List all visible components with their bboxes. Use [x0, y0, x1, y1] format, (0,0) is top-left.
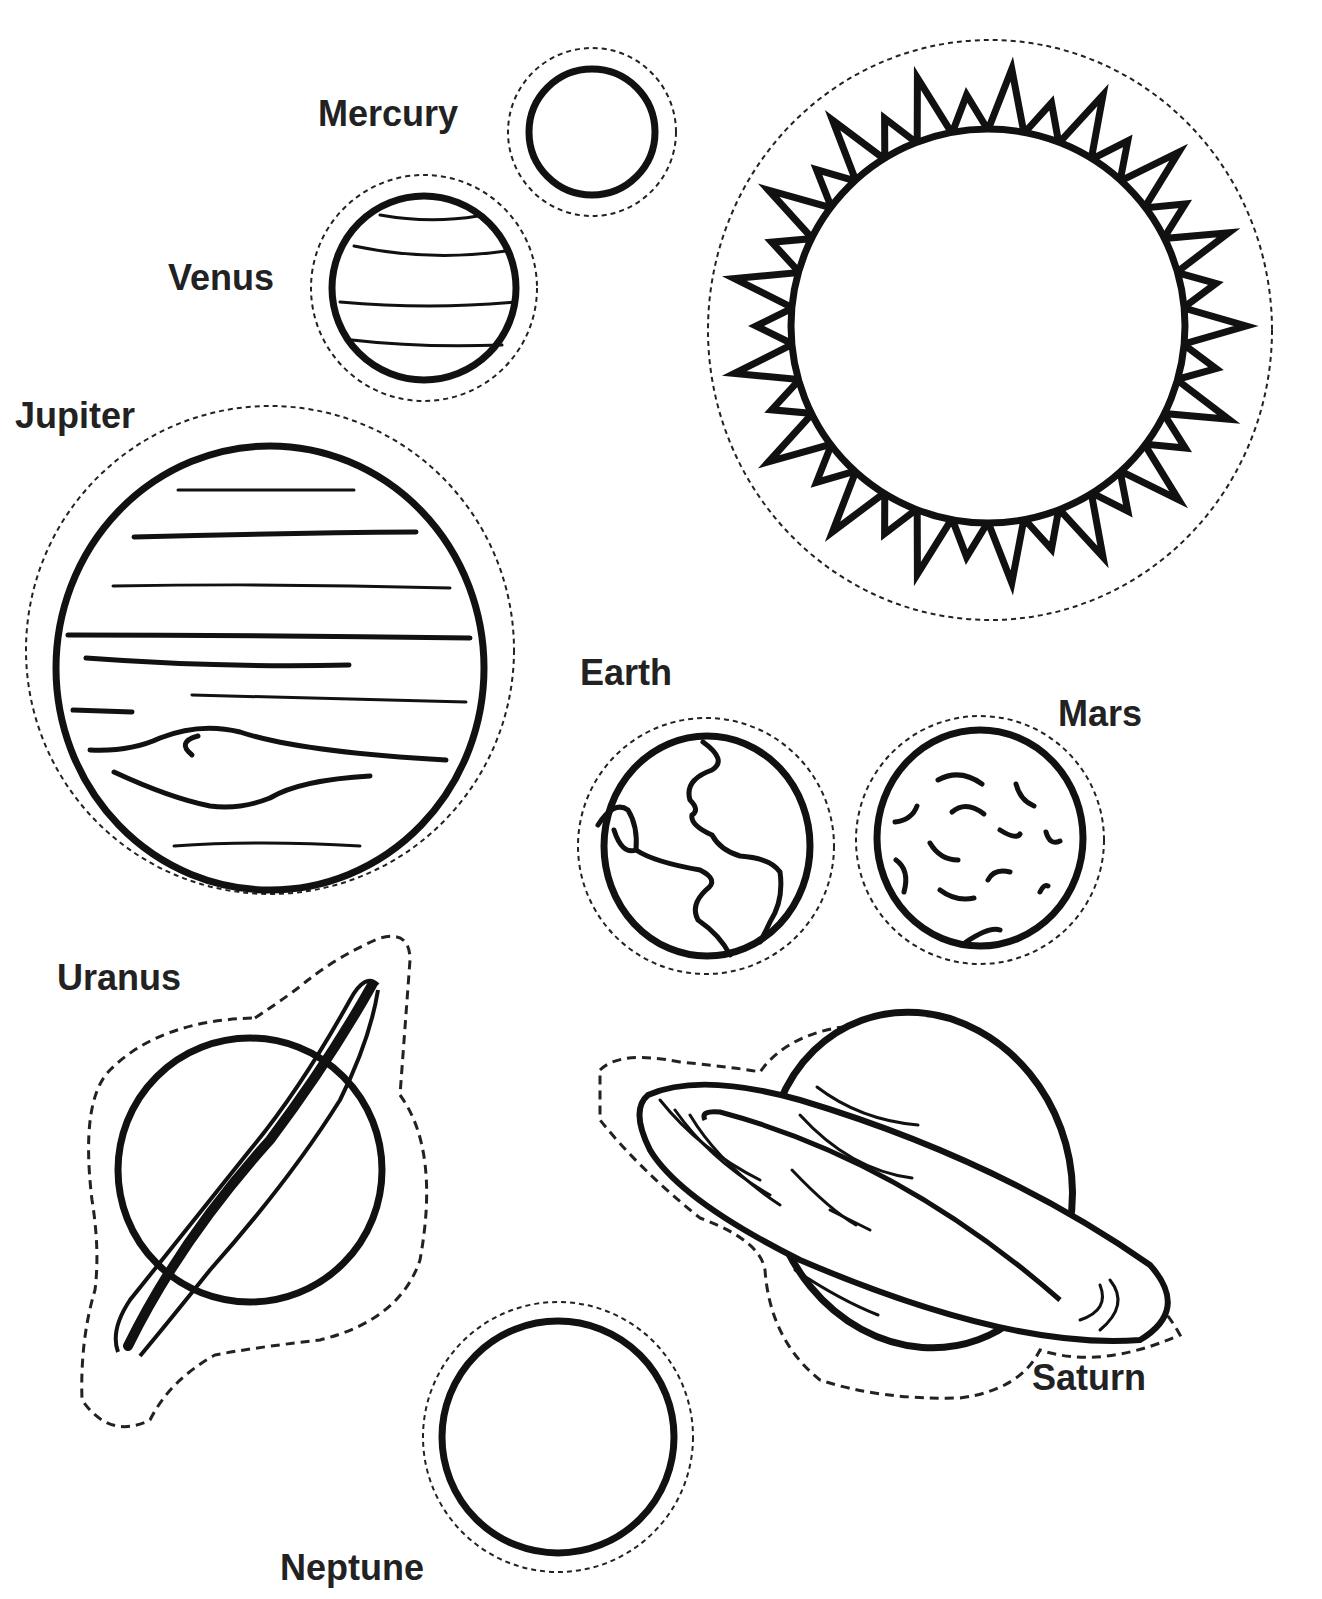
label-uranus: Uranus — [57, 960, 181, 996]
mars-icon — [856, 716, 1104, 964]
sun-icon — [708, 40, 1272, 620]
label-earth: Earth — [580, 655, 672, 691]
venus-icon — [311, 175, 537, 401]
earth-icon — [578, 718, 834, 974]
jupiter-icon — [26, 406, 514, 894]
label-mercury: Mercury — [318, 96, 458, 132]
label-jupiter: Jupiter — [15, 398, 135, 434]
saturn-icon — [600, 969, 1180, 1398]
neptune-icon — [423, 1302, 693, 1572]
label-neptune: Neptune — [280, 1550, 424, 1586]
label-saturn: Saturn — [1032, 1360, 1146, 1396]
label-mars: Mars — [1058, 696, 1142, 732]
label-venus: Venus — [168, 260, 274, 296]
uranus-icon — [82, 936, 427, 1426]
mercury-icon — [508, 48, 676, 216]
